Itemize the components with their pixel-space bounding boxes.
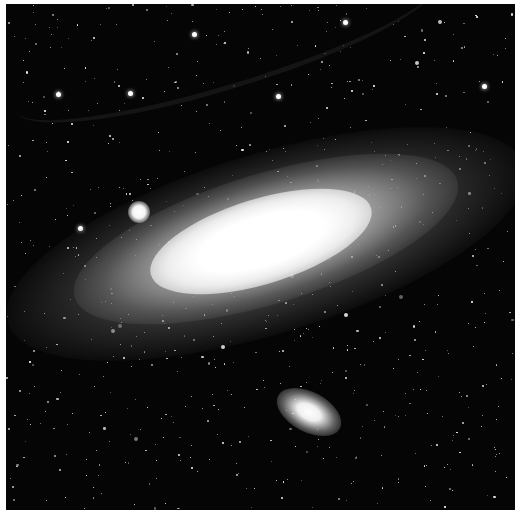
star [282,350,284,352]
star [159,150,160,151]
star [360,364,361,365]
star [180,460,182,462]
star [468,323,469,324]
star [511,13,513,15]
star [251,507,252,508]
star [365,120,367,122]
star [384,426,386,428]
star [420,389,422,391]
star [381,455,383,457]
star [19,222,20,223]
star [123,188,124,189]
star [422,359,424,361]
star [8,145,9,146]
star [289,428,291,430]
star [71,123,73,125]
star [485,313,486,314]
star [453,34,455,36]
star [166,6,167,7]
star [218,409,219,410]
star [461,396,462,397]
star [393,368,394,369]
star [109,135,111,137]
star [86,475,88,477]
star [320,383,321,384]
star [14,415,16,417]
star [93,37,95,39]
star [126,193,128,195]
star [349,81,351,83]
star [171,13,172,14]
star [505,38,506,39]
star [214,359,215,360]
star [72,413,73,414]
star [46,500,47,501]
star [308,74,309,75]
star [231,394,232,395]
star [60,392,61,393]
star [79,374,81,376]
star [345,377,347,379]
star [354,390,355,391]
star [415,61,419,65]
satellite-galaxy-upper [128,201,150,223]
star [50,47,51,48]
star [23,457,25,459]
star [173,422,174,423]
star [134,504,135,505]
star [482,385,484,387]
star [8,428,10,430]
star [191,396,192,397]
star [195,152,196,153]
star [481,426,483,428]
star [276,480,277,481]
star [191,467,193,469]
star [425,350,426,351]
star [29,361,31,363]
star [303,333,304,334]
star [289,366,290,367]
star [93,487,94,488]
star [249,144,251,146]
star [157,178,158,179]
star [208,362,210,364]
star [16,466,18,468]
star [350,127,351,128]
star [119,187,120,188]
star [110,206,111,207]
star [445,95,447,97]
star [379,306,381,308]
star [329,65,330,66]
star [294,340,296,342]
star [108,143,109,144]
star [46,177,47,178]
star [284,125,286,127]
star [326,107,328,109]
star [319,326,320,327]
star [356,330,358,332]
star [511,319,513,321]
star [201,356,203,358]
star [149,483,151,485]
star [165,414,167,416]
star [140,179,141,180]
star [450,469,452,471]
star [475,327,476,328]
star [496,454,497,455]
star [25,38,26,39]
star [224,101,226,103]
star [484,293,486,295]
star [493,54,494,55]
star [46,142,47,143]
star [424,465,426,467]
star [291,84,293,86]
star [241,127,242,128]
star [494,447,496,449]
star [156,460,157,461]
star [436,93,438,95]
star [405,393,406,394]
star [295,446,296,447]
star [19,155,21,157]
star [444,467,445,468]
star [110,203,111,204]
